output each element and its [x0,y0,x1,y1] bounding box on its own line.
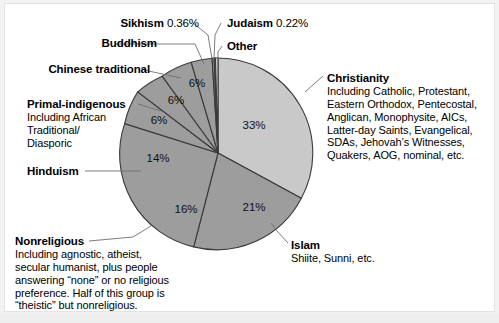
label-buddhism-name: Buddhism [5,37,157,50]
label-christianity-name: Christianity [327,72,495,85]
label-primal-indigenous-name: Primal-indigenous [27,98,147,111]
leader-line-judaism [214,23,221,59]
label-nonreligious-desc-2: secular humanist, plus people [15,261,215,274]
figure-root: 33% 21% 16% 14% 6% 6% 6% [0,0,499,323]
pie-value-hinduism: 14% [146,152,169,164]
pie-value-christianity: 33% [242,119,265,131]
label-christianity-desc-6: Quakers, AOG, nominal, etc. [327,149,495,162]
label-hinduism-name: Hinduism [27,165,127,178]
label-hinduism: Hinduism [27,165,127,178]
label-judaism: Judaism 0.22% [227,17,377,30]
label-christianity-desc-5: SDAs, Jehovah’s Witnesses, [327,136,495,149]
label-nonreligious-desc-1: Including agnostic, atheist, [15,248,215,261]
pie-value-islam: 21% [242,201,265,213]
label-sikhism: Sikhism 0.36% [5,17,199,30]
label-other-name: Other [227,40,327,53]
label-sikhism-text: Sikhism 0.36% [5,17,199,30]
label-primal-indigenous: Primal-indigenous Including African Trad… [27,98,147,150]
label-islam-name: Islam [291,239,441,252]
label-christianity-desc-2: Eastern Orthodox, Pentecostal, [327,98,495,111]
label-christianity-desc-3: Anglican, Monophysite, AICs, [327,111,495,124]
leader-line-christianity [305,76,323,92]
label-sikhism-name: Sikhism [120,17,163,29]
label-primal-indigenous-desc-2: Traditional/ [27,124,147,137]
pie-value-buddhism: 6% [189,77,206,89]
pie-value-chinese-traditional: 6% [168,94,185,106]
label-chinese-traditional-name: Chinese traditional [5,63,150,76]
label-nonreligious-desc-3: answering “none” or no religious [15,274,215,287]
label-sikhism-percent: 0.36% [167,17,199,29]
label-nonreligious-name: Nonreligious [15,235,215,248]
label-islam: Islam Shiite, Sunni, etc. [291,239,441,265]
pie-value-nonreligious: 16% [174,203,197,215]
label-chinese-traditional: Chinese traditional [5,63,150,76]
bottom-strip [0,314,499,323]
label-judaism-percent: 0.22% [276,17,308,29]
pie-value-primal-indigenous: 6% [151,114,168,126]
label-christianity: Christianity Including Catholic, Protest… [327,72,495,162]
label-christianity-desc-4: Latter-day Saints, Evangelical, [327,124,495,137]
label-judaism-text: Judaism 0.22% [227,17,377,30]
label-christianity-desc-1: Including Catholic, Protestant, [327,85,495,98]
label-primal-indigenous-desc-3: Diasporic [27,137,147,150]
label-buddhism: Buddhism [5,37,157,50]
label-other: Other [227,40,327,53]
label-nonreligious-desc-5: “theistic” but nonreligious. [15,299,215,312]
label-primal-indigenous-desc-1: Including African [27,111,147,124]
chart-plate: 33% 21% 16% 14% 6% 6% 6% [4,3,495,312]
label-nonreligious: Nonreligious Including agnostic, atheist… [15,235,215,312]
label-islam-desc-1: Shiite, Sunni, etc. [291,252,441,265]
label-judaism-name: Judaism [227,17,273,29]
label-nonreligious-desc-4: preference. Half of this group is [15,287,215,300]
